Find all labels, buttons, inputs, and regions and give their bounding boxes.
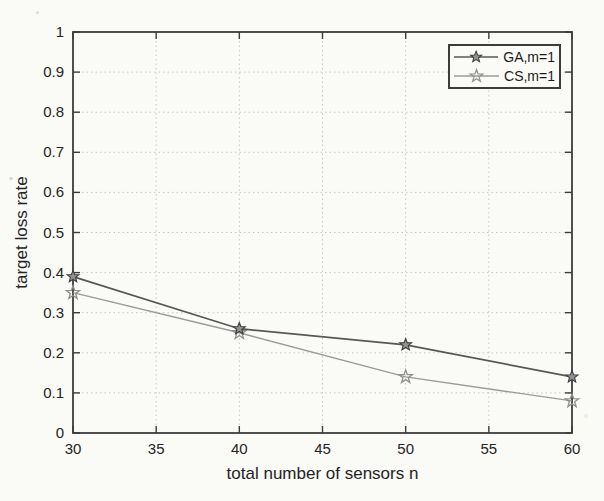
y-tick-label: 1 — [56, 23, 64, 40]
figure: 3035404550556000.10.20.30.40.50.60.70.80… — [0, 0, 604, 501]
y-axis-label: target loss rate — [12, 176, 31, 288]
y-tick-label: 0.8 — [43, 103, 64, 120]
x-tick-label: 55 — [480, 440, 497, 457]
legend-label-ga: GA,m=1 — [503, 49, 555, 65]
cs-star-marker-icon — [454, 68, 499, 84]
legend-entry-cs: CS,m=1 — [454, 67, 555, 87]
y-tick-label: 0.5 — [43, 224, 64, 241]
y-tick-label: 0.4 — [43, 264, 64, 281]
y-tick-label: 0.3 — [43, 304, 64, 321]
x-axis-label: total number of sensors n — [227, 464, 419, 483]
scan-speckle — [9, 177, 13, 180]
x-tick-label: 50 — [397, 440, 414, 457]
pentagram-marker-glyph — [471, 51, 482, 62]
grid-lines — [73, 32, 572, 433]
y-tick-label: 0.2 — [43, 344, 64, 361]
legend-box: GA,m=1 CS,m=1 — [448, 44, 561, 89]
cs-series-line — [73, 293, 572, 401]
y-tick-label: 0.1 — [43, 384, 64, 401]
x-tick-label: 60 — [564, 440, 581, 457]
legend-label-cs: CS,m=1 — [504, 68, 555, 84]
scan-speckle — [36, 11, 39, 14]
y-tick-label: 0.6 — [43, 183, 64, 200]
x-tick-label: 35 — [148, 440, 165, 457]
scan-speckle — [584, 414, 588, 418]
x-tick-label: 40 — [231, 440, 248, 457]
x-tick-label: 30 — [65, 440, 82, 457]
y-tick-label: 0.7 — [43, 143, 64, 160]
y-tick-label: 0 — [56, 424, 64, 441]
y-tick-label: 0.9 — [43, 63, 64, 80]
legend-entry-ga: GA,m=1 — [454, 47, 555, 67]
ga-pentagram-marker-icon — [454, 49, 498, 65]
x-tick-label: 45 — [314, 440, 331, 457]
